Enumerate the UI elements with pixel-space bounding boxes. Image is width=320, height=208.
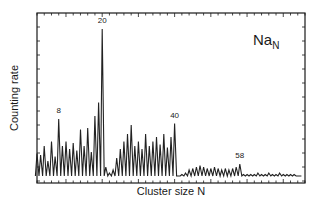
species-subscript: N (272, 40, 279, 51)
x-axis-label: Cluster size N (0, 185, 320, 197)
peak-annotation-20: 20 (98, 16, 107, 25)
abundance-trace (35, 29, 301, 176)
species-label: NaN (253, 31, 279, 51)
species-base: Na (253, 31, 272, 48)
peak-annotation-40: 40 (170, 111, 179, 120)
peak-annotation-58: 58 (235, 151, 244, 160)
peak-annotation-8: 8 (56, 106, 60, 115)
y-axis-label: Counting rate (8, 65, 20, 131)
